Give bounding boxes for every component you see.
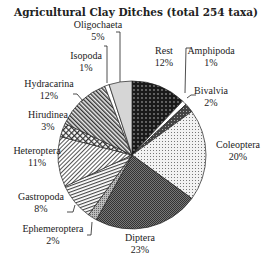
label-bivalvia: Bivalvia bbox=[194, 85, 228, 96]
label-heteroptera: Heteroptera bbox=[13, 145, 61, 156]
label-amphipoda: Amphipoda bbox=[187, 45, 235, 56]
pct-hydracarina: 12% bbox=[40, 90, 58, 101]
chart-title: Agricultural Clay Ditches (total 254 tax… bbox=[13, 6, 258, 18]
pct-bivalvia: 2% bbox=[204, 97, 217, 108]
pct-heteroptera: 11% bbox=[28, 157, 46, 168]
pct-gastropoda: 8% bbox=[34, 203, 47, 214]
label-rest: Rest bbox=[155, 45, 173, 56]
label-isopoda: Isopoda bbox=[70, 50, 102, 61]
pct-coleoptera: 20% bbox=[229, 151, 247, 162]
pct-isopoda: 1% bbox=[79, 62, 92, 73]
pct-diptera: 23% bbox=[131, 244, 149, 255]
label-hydracarina: Hydracarina bbox=[24, 78, 74, 89]
label-hirudinea: Hirudinea bbox=[28, 109, 69, 120]
label-ephemeroptera: Ephemeroptera bbox=[22, 223, 84, 234]
label-diptera: Diptera bbox=[125, 232, 156, 243]
pie-slices bbox=[58, 81, 206, 229]
pct-rest: 12% bbox=[155, 57, 173, 68]
label-gastropoda: Gastropoda bbox=[18, 191, 65, 202]
pct-oligochaeta: 5% bbox=[91, 31, 104, 42]
pct-ephemeroptera: 2% bbox=[46, 235, 59, 246]
label-coleoptera: Coleoptera bbox=[216, 139, 260, 150]
label-oligochaeta: Oligochaeta bbox=[74, 19, 123, 30]
pct-amphipoda: 1% bbox=[204, 57, 217, 68]
pct-hirudinea: 3% bbox=[41, 121, 54, 132]
pie-chart: Agricultural Clay Ditches (total 254 tax… bbox=[0, 0, 267, 255]
